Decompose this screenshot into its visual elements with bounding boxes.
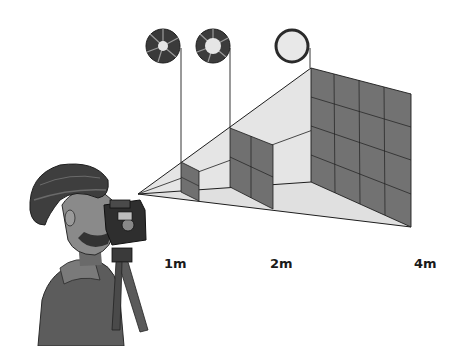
diagram-canvas: 1m 2m 4m [0, 0, 455, 346]
aperture-closed-icon [146, 29, 180, 63]
aperture-half-open-icon [196, 29, 230, 63]
distance-label-2m: 2m [270, 256, 293, 271]
distance-label-4m: 4m [414, 256, 437, 271]
photographer-illustration [30, 164, 148, 346]
distance-label-1m: 1m [164, 256, 187, 271]
aperture-open-icon [276, 30, 308, 62]
